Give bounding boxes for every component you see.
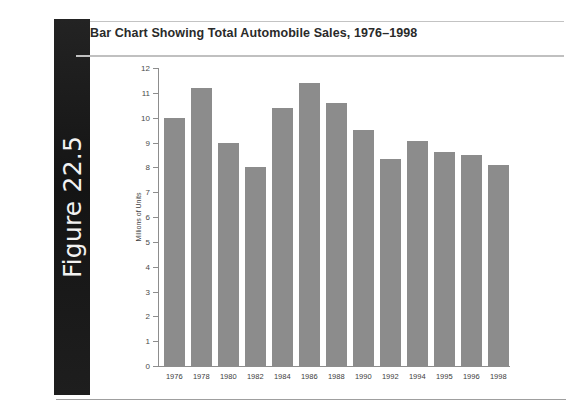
bar	[245, 167, 266, 366]
bar	[218, 143, 239, 367]
y-tick-label: 10	[141, 113, 150, 122]
y-tick-mark	[153, 292, 158, 293]
bar	[488, 165, 509, 366]
x-tick-label: 1986	[301, 372, 318, 381]
y-axis-line	[158, 68, 159, 366]
bar	[164, 118, 185, 366]
figure-page: Figure 22.5 Bar Chart Showing Total Auto…	[0, 0, 577, 418]
y-tick-mark	[153, 316, 158, 317]
y-tick-mark	[153, 341, 158, 342]
y-tick-label: 1	[146, 337, 150, 346]
y-tick-mark	[153, 143, 158, 144]
x-axis-line	[158, 366, 510, 367]
y-tick-mark	[153, 242, 158, 243]
y-tick-mark	[153, 68, 158, 69]
x-tick-label: 1990	[355, 372, 372, 381]
y-tick-mark	[153, 192, 158, 193]
chart-plot-area: Millions of Units 0123456789101112 19761…	[158, 68, 510, 366]
y-tick-label: 8	[146, 163, 150, 172]
y-tick-label: 11	[142, 88, 150, 97]
x-tick-label: 1995	[436, 372, 453, 381]
bar	[407, 141, 428, 366]
x-tick-label: 1978	[193, 372, 210, 381]
figure-number-label: Figure 22.5	[58, 136, 87, 278]
y-tick-label: 9	[146, 138, 150, 147]
x-tick-label: 1998	[490, 372, 507, 381]
y-tick-label: 12	[141, 64, 150, 73]
y-tick-mark	[153, 118, 158, 119]
bar	[326, 103, 347, 366]
y-tick-mark	[153, 267, 158, 268]
y-tick-mark	[153, 217, 158, 218]
x-tick-label: 1996	[463, 372, 480, 381]
bar	[461, 155, 482, 366]
bar	[353, 130, 374, 366]
x-tick-label: 1982	[247, 372, 264, 381]
y-tick-label: 7	[146, 188, 150, 197]
x-tick-label: 1976	[166, 372, 183, 381]
y-tick-label: 0	[146, 362, 150, 371]
bar	[434, 152, 455, 366]
figure-number-tab: Figure 22.5	[54, 19, 90, 395]
y-tick-label: 6	[146, 213, 150, 222]
y-tick-mark	[153, 366, 158, 367]
x-tick-label: 1988	[328, 372, 345, 381]
rule-top	[88, 21, 564, 22]
x-tick-label: 1984	[274, 372, 291, 381]
x-tick-label: 1980	[220, 372, 237, 381]
rule-under-title	[76, 55, 564, 57]
y-tick-mark	[153, 167, 158, 168]
y-tick-mark	[153, 93, 158, 94]
x-tick-label: 1992	[382, 372, 399, 381]
x-tick-label: 1994	[409, 372, 426, 381]
bar	[380, 159, 401, 366]
y-tick-label: 2	[146, 312, 150, 321]
rule-bottom	[56, 399, 566, 400]
bar	[272, 108, 293, 366]
y-tick-label: 5	[146, 237, 150, 246]
chart-title: Bar Chart Showing Total Automobile Sales…	[90, 26, 550, 40]
y-axis-title: Millions of Units	[135, 192, 142, 241]
y-tick-label: 3	[146, 287, 150, 296]
bar	[299, 83, 320, 366]
y-tick-label: 4	[146, 262, 150, 271]
bar	[191, 88, 212, 366]
